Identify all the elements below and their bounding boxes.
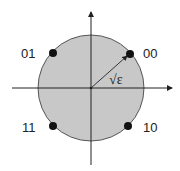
origin-dot [90,87,93,90]
radius-label: √ε [109,72,123,87]
symbol-point-01 [49,49,57,57]
symbol-point-10 [124,122,132,130]
label-01: 01 [21,46,35,61]
constellation-diagram: 00 01 11 10 √ε [0,0,180,171]
label-11: 11 [22,120,36,135]
label-00: 00 [143,46,157,61]
label-10: 10 [143,120,157,135]
symbol-point-11 [49,122,57,130]
symbol-point-00 [126,50,134,58]
